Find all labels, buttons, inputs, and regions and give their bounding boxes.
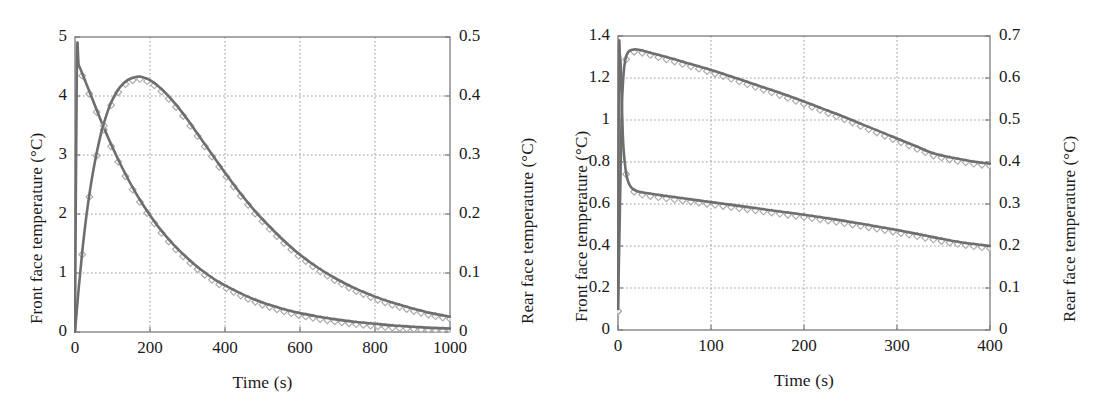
- y-tick-label-left: 0.4: [540, 235, 610, 255]
- y-tick-label-right: 0.4: [999, 151, 1069, 171]
- y-tick-label-right: 0: [459, 321, 529, 341]
- series-markers: [72, 72, 454, 337]
- x-tick-label: 400: [185, 338, 265, 358]
- x-tick-label: 200: [764, 336, 844, 356]
- y-tick-label-right: 0.3: [459, 144, 529, 164]
- y-tick-label-right: 0.4: [459, 85, 529, 105]
- x-axis-title-time: Time (s): [75, 372, 450, 393]
- y-tick-label-right: 0.6: [999, 67, 1069, 87]
- y-tick-label-left: 5: [0, 26, 67, 46]
- y-tick-label-left: 1: [0, 262, 67, 282]
- x-tick-label: 0: [35, 338, 115, 358]
- series-line: [75, 42, 450, 332]
- y-tick-label-right: 0.1: [999, 277, 1069, 297]
- x-tick-label: 200: [110, 338, 190, 358]
- series-line: [75, 77, 450, 332]
- y-tick-label-left: 1.2: [540, 67, 610, 87]
- y-tick-label-right: 0.1: [459, 262, 529, 282]
- x-tick-label: 600: [260, 338, 340, 358]
- data-series: [72, 42, 454, 337]
- y-tick-label-left: 0.8: [540, 151, 610, 171]
- figure-container: Front face temperature (°C) Rear face te…: [0, 0, 1094, 417]
- y-tick-label-left: 3: [0, 144, 67, 164]
- y-tick-label-left: 0.2: [540, 277, 610, 297]
- y-tick-label-left: 0: [540, 319, 610, 339]
- x-tick-label: 300: [857, 336, 937, 356]
- x-tick-label: 100: [671, 336, 751, 356]
- x-tick-label: 0: [578, 336, 658, 356]
- y-tick-label-right: 0.7: [999, 25, 1069, 45]
- x-tick-label: 1000: [410, 338, 490, 358]
- x-tick-label: 800: [335, 338, 415, 358]
- y-tick-label-left: 2: [0, 203, 67, 223]
- y-tick-label-right: 0.5: [459, 26, 529, 46]
- chart-panel-right: Front face temperature (°C) Rear face te…: [547, 0, 1094, 417]
- series-markers: [72, 76, 454, 338]
- y-tick-label-right: 0.3: [999, 193, 1069, 213]
- gridlines: [618, 36, 990, 330]
- chart-panel-left: Front face temperature (°C) Rear face te…: [0, 0, 547, 417]
- y-tick-label-right: 0: [999, 319, 1069, 339]
- y-tick-label-left: 0.6: [540, 193, 610, 213]
- x-tick-label: 400: [950, 336, 1030, 356]
- y-axis-title-right-rear: Rear face temperature (°C): [518, 138, 538, 324]
- y-tick-label-right: 0.2: [999, 235, 1069, 255]
- data-series: [72, 76, 454, 338]
- y-tick-label-left: 4: [0, 85, 67, 105]
- y-tick-label-right: 0.5: [999, 109, 1069, 129]
- x-axis-title-time: Time (s): [618, 370, 990, 391]
- y-tick-label-left: 1: [540, 109, 610, 129]
- y-tick-label-right: 0.2: [459, 203, 529, 223]
- y-tick-label-left: 1.4: [540, 25, 610, 45]
- y-tick-label-left: 0: [0, 321, 67, 341]
